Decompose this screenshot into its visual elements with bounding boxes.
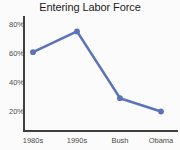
data-series-line [0,0,180,150]
plot-area: 80% 60% 40% 20% 1980s 1990s Bush Obama [0,0,180,150]
chart-container: Entering Labor Force 80% 60% 40% 20% 198… [0,0,180,150]
data-point-1980s [30,49,36,55]
series-markers [30,29,164,115]
data-point-bush [117,95,123,101]
series-polyline [33,31,161,111]
data-point-1990s [74,29,80,35]
data-point-obama [158,109,164,115]
